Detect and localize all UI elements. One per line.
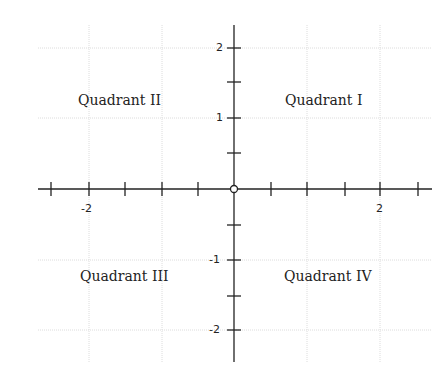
x-tick-label-neg2: -2 — [81, 202, 92, 215]
y-tick-label-neg2: -2 — [209, 323, 220, 336]
grid — [38, 25, 432, 362]
y-tick-label-2: 2 — [216, 41, 223, 54]
quadrant-4-label: Quadrant IV — [284, 268, 372, 284]
quadrant-1-label: Quadrant I — [285, 92, 362, 108]
quadrant-3-label: Quadrant III — [80, 268, 169, 284]
coordinate-plane — [0, 0, 448, 382]
origin-marker — [231, 186, 238, 193]
x-tick-label-2: 2 — [376, 202, 383, 215]
y-tick-label-1: 1 — [216, 111, 223, 124]
quadrant-2-label: Quadrant II — [78, 92, 161, 108]
y-axis — [227, 25, 241, 362]
y-tick-label-neg1: -1 — [209, 253, 220, 266]
